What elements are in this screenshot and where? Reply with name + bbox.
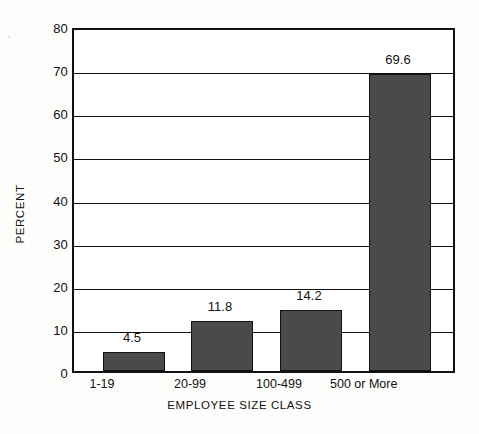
plot-area: [72, 28, 455, 373]
y-tick-label: 60: [34, 108, 68, 121]
bar-value-label: 11.8: [189, 300, 251, 313]
y-tick-label: 30: [34, 237, 68, 250]
y-tick-label: 20: [34, 280, 68, 293]
y-tick-label: 40: [34, 194, 68, 207]
scan-speck: [8, 36, 10, 38]
bar-value-label: 14.2: [278, 289, 340, 302]
x-tick-label: 500 or More: [330, 378, 470, 391]
bar-value-label: 69.6: [367, 53, 429, 66]
y-tick-label: 10: [34, 323, 68, 336]
y-tick-label: 70: [34, 65, 68, 78]
x-axis-title: EMPLOYEE SIZE CLASS: [0, 399, 479, 411]
y-axis-title: PERCENT: [14, 172, 26, 256]
bar-500-or-more: [369, 74, 431, 371]
y-tick-label: 80: [34, 22, 68, 35]
bar-20-99: [191, 321, 253, 371]
bar-100-499: [280, 310, 342, 371]
y-tick-label: 50: [34, 151, 68, 164]
y-tick-label: 0: [34, 367, 68, 380]
x-tick-label: 100-499: [248, 378, 310, 391]
bar-1-19: [103, 352, 165, 371]
bar-chart: PERCENT 80 70 60 50 40 30 20 10 0 4.5 11…: [0, 0, 479, 434]
y-axis-tick-labels: 80 70 60 50 40 30 20 10 0: [28, 28, 68, 373]
x-tick-label: 1-19: [71, 378, 133, 391]
x-tick-label: 20-99: [159, 378, 221, 391]
bar-value-label: 4.5: [101, 331, 163, 344]
